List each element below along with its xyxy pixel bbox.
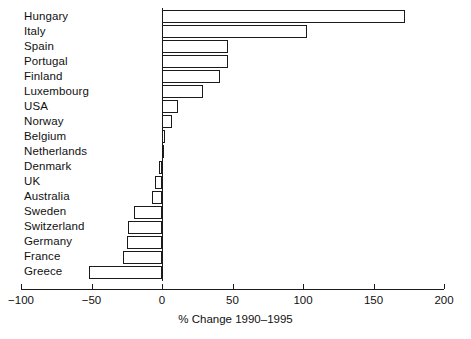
category-label-portugal: Portugal [24, 55, 68, 67]
x-tick-label--100: −100 [0, 294, 46, 306]
x-tick-200 [444, 284, 445, 289]
x-tick-label-0: 0 [137, 294, 187, 306]
category-label-australia: Australia [24, 190, 70, 202]
bar-australia [152, 191, 162, 204]
category-label-hungary: Hungary [24, 10, 68, 22]
bar-italy [162, 25, 307, 38]
category-label-sweden: Sweden [24, 205, 66, 217]
category-label-usa: USA [24, 100, 48, 112]
bar-france [123, 251, 162, 264]
x-tick-150 [374, 284, 375, 289]
category-label-luxembourg: Luxembourg [24, 85, 89, 97]
x-tick-100 [303, 284, 304, 289]
x-tick-label-50: 50 [208, 294, 258, 306]
category-label-switzerland: Switzerland [24, 220, 85, 232]
category-label-italy: Italy [24, 25, 46, 37]
bar-uk [155, 176, 162, 189]
category-label-belgium: Belgium [24, 130, 66, 142]
x-axis-line [21, 289, 444, 290]
category-label-netherlands: Netherlands [24, 145, 87, 157]
bar-luxembourg [162, 85, 203, 98]
bar-greece [89, 266, 162, 279]
category-label-finland: Finland [24, 70, 62, 82]
bar-usa [162, 100, 178, 113]
category-label-france: France [24, 250, 60, 262]
category-label-uk: UK [24, 175, 40, 187]
bar-hungary [162, 10, 405, 23]
zero-baseline-axis [162, 8, 163, 281]
bar-germany [127, 236, 162, 249]
x-tick-label-100: 100 [278, 294, 328, 306]
bar-spain [162, 40, 228, 53]
x-tick--100 [21, 284, 22, 289]
bar-finland [162, 70, 220, 83]
category-label-germany: Germany [24, 235, 72, 247]
x-axis-title: % Change 1990–1995 [0, 313, 471, 326]
x-tick--50 [92, 284, 93, 289]
bar-norway [162, 115, 172, 128]
bar-chart: HungaryItalySpainPortugalFinlandLuxembou… [0, 0, 471, 339]
bar-portugal [162, 55, 228, 68]
x-tick-label--50: −50 [67, 294, 117, 306]
bar-sweden [134, 206, 162, 219]
x-tick-label-150: 150 [349, 294, 399, 306]
category-label-norway: Norway [24, 115, 64, 127]
x-tick-0 [162, 284, 163, 289]
category-label-spain: Spain [24, 40, 54, 52]
category-label-greece: Greece [24, 265, 62, 277]
x-tick-50 [233, 284, 234, 289]
category-label-denmark: Denmark [24, 160, 71, 172]
bar-switzerland [128, 221, 162, 234]
x-tick-label-200: 200 [419, 294, 469, 306]
